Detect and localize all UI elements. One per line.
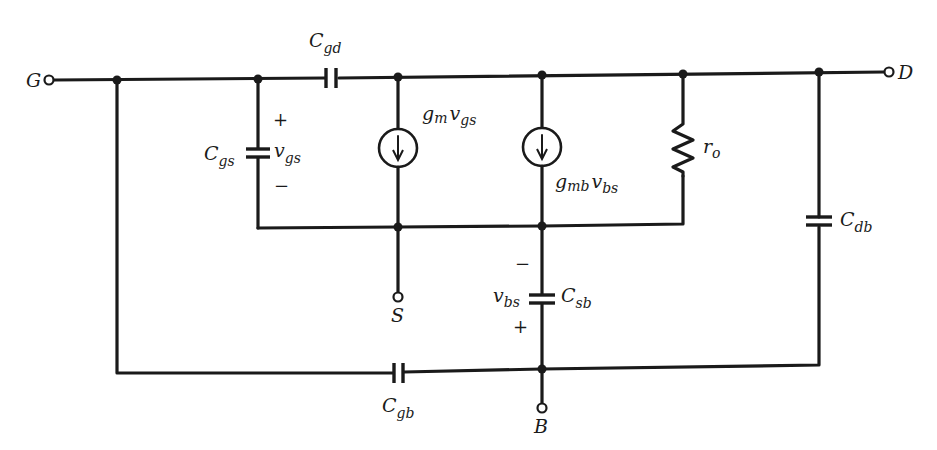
current-source-gm	[379, 78, 417, 292]
vbs-minus-sign: −	[515, 253, 530, 274]
vgs-minus-sign: −	[274, 175, 289, 196]
vgs-plus-sign: +	[273, 109, 288, 130]
top-rail	[54, 72, 884, 80]
label-vbs: vbs	[493, 284, 520, 310]
label-ro: ro	[703, 135, 721, 161]
capacitor-cgb	[394, 363, 403, 383]
label-csb: Csb	[561, 284, 592, 311]
label-g: G	[26, 69, 41, 91]
label-cgb: Cgb	[382, 394, 415, 421]
label-cdb: Cdb	[840, 208, 873, 235]
label-gm-vgs: gmvgs	[422, 102, 476, 128]
resistor-ro	[673, 74, 693, 176]
capacitor-cdb	[806, 72, 832, 225]
terminal-s	[394, 293, 403, 302]
capacitor-cgd	[326, 68, 336, 88]
label-b: B	[533, 415, 548, 437]
label-d: D	[897, 61, 913, 83]
label-vgs: vgs	[274, 139, 301, 166]
capacitor-csb	[529, 226, 555, 403]
middle-rail	[258, 176, 683, 228]
terminal-b	[538, 404, 547, 413]
terminal-g	[45, 76, 54, 85]
label-cgd: Cgd	[309, 29, 342, 56]
bottom-rail-right	[404, 227, 819, 372]
label-s: S	[391, 304, 404, 326]
circuit-diagram: G D S B Cgd Cgs vgs + − gmvgs gmbvbs ro …	[0, 0, 937, 450]
terminal-d	[885, 68, 894, 77]
label-cgs: Cgs	[204, 142, 235, 169]
label-gmb-vbs: gmbvbs	[555, 170, 618, 196]
vbs-plus-sign: +	[513, 316, 528, 337]
branch-cgs	[246, 79, 270, 228]
current-source-gmb	[523, 75, 561, 226]
